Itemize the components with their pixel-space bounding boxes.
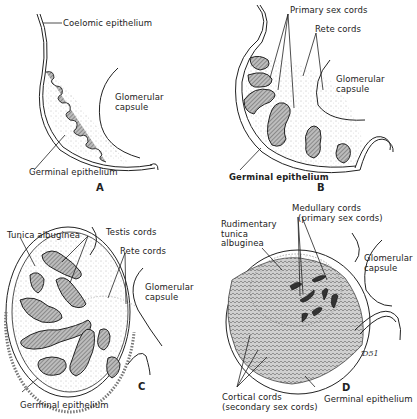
label-germinal-epithelium-c: Germinal epithelium [20,401,109,411]
label-line-2: (primary sex cords) [292,214,383,224]
germinal-leader-a [34,135,65,170]
label-tunica-albuginea: Tunica albuginea [7,231,80,241]
panel-letter-c: C [138,381,145,392]
panel-letter-d: D [342,382,350,393]
label-line-2: capsule [364,264,413,274]
label-glomerular-capsule-b: Glomerular capsule [336,75,385,94]
label-testis-cords: Testis cords [106,228,156,238]
label-glomerular-capsule-d: Glomerular capsule [364,254,413,273]
label-coelomic-epithelium: Coelomic epithelium [63,19,152,29]
label-glomerular-capsule-a: Glomerular capsule [115,93,164,112]
label-line-2: capsule [115,103,164,113]
label-medullary-cords: Medullary cords (primary sex cords) [292,204,383,223]
label-line-3: albuginea [221,239,277,249]
label-germinal-epithelium-d: Germinal epithelium [324,395,413,405]
label-rete-cords-c: Rete cords [120,247,166,257]
artist-signature: Ɗ51 [362,349,379,358]
label-glomerular-capsule-c: Glomerular capsule [145,283,194,302]
panel-letter-a: A [96,182,104,193]
label-primary-sex-cords: Primary sex cords [290,6,368,16]
label-cortical-cords: Cortical cords (secondary sex cords) [222,393,318,412]
label-germinal-epithelium-a: Germinal epithelium [29,168,118,178]
label-germinal-epithelium-b: Germinal epithelium [229,173,329,183]
label-rudimentary-tunica-albuginea: Rudimentary tunica albuginea [221,220,277,249]
panel-letter-b: B [317,182,325,193]
label-line-2: (secondary sex cords) [222,403,318,413]
label-line-2: capsule [336,85,385,95]
label-rete-cords-b: Rete cords [315,25,361,35]
label-line-2: capsule [145,293,194,303]
